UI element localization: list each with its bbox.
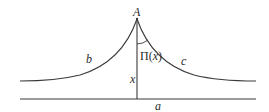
angle-arc	[137, 40, 148, 44]
label-right-curve: c	[181, 54, 187, 68]
pi-symbol: Π	[140, 49, 149, 63]
label-left-curve: b	[86, 52, 92, 66]
curve-b	[20, 19, 137, 81]
label-baseline: a	[155, 99, 161, 112]
label-angle: Π(x)	[140, 49, 162, 63]
label-vertex: A	[132, 5, 141, 19]
diagram: A b c Π(x) x a	[0, 0, 269, 112]
diagram-canvas: A b c Π(x) x a	[0, 0, 269, 112]
label-perpendicular: x	[129, 72, 136, 86]
